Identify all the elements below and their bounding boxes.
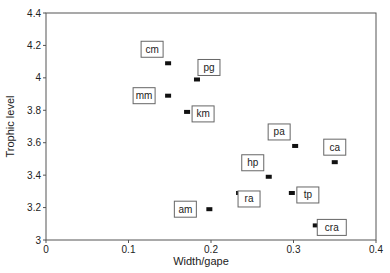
point-label: tp <box>304 189 313 200</box>
data-point-marker <box>165 94 171 98</box>
x-axis-label: Width/gape <box>173 255 229 267</box>
point-label: hp <box>247 157 259 168</box>
data-point-marker <box>194 77 200 81</box>
y-tick-label: 4 <box>35 72 41 83</box>
data-point-marker <box>332 160 338 164</box>
plot-frame <box>46 13 376 240</box>
x-tick-label: 0.4 <box>369 244 383 255</box>
x-tick-label: 0.1 <box>122 244 136 255</box>
point-label: am <box>178 204 192 215</box>
point-label: km <box>196 108 209 119</box>
data-point-marker <box>266 175 272 179</box>
y-tick-label: 3.8 <box>27 105 41 116</box>
data-point-marker <box>292 144 298 148</box>
y-tick-label: 3.2 <box>27 202 41 213</box>
point-label: pg <box>203 62 214 73</box>
chart-canvas: 00.10.20.30.433.23.43.63.844.24.4Width/g… <box>0 0 390 273</box>
point-label: cm <box>145 44 158 55</box>
x-tick-label: 0.3 <box>287 244 301 255</box>
y-tick-label: 3.4 <box>27 170 41 181</box>
point-label: ra <box>245 193 254 204</box>
y-tick-label: 4.4 <box>27 8 41 19</box>
y-tick-label: 3 <box>35 235 41 246</box>
data-point-marker <box>184 110 190 114</box>
point-label: mm <box>136 90 153 101</box>
point-label: cra <box>325 222 339 233</box>
point-label: ca <box>329 142 340 153</box>
y-tick-label: 4.2 <box>27 40 41 51</box>
y-tick-label: 3.6 <box>27 137 41 148</box>
data-point-marker <box>289 191 295 195</box>
x-tick-label: 0.2 <box>204 244 218 255</box>
y-axis-label: Trophic level <box>4 96 16 158</box>
x-tick-label: 0 <box>43 244 49 255</box>
point-label: pa <box>274 126 286 137</box>
data-point-marker <box>206 207 212 211</box>
data-point-marker <box>165 61 171 65</box>
scatter-chart: 00.10.20.30.433.23.43.63.844.24.4Width/g… <box>0 0 390 273</box>
